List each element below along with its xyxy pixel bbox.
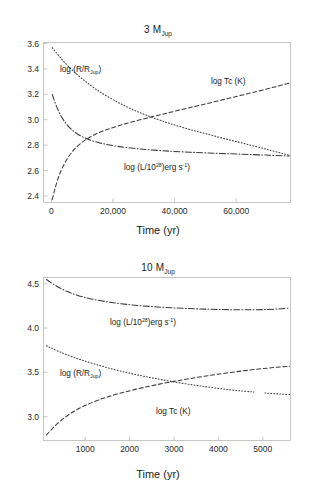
y-tick-label: 4.0 [27, 323, 39, 333]
x-tickmarks-top [51, 199, 236, 203]
curve-label-temperature-bottom: log Tc (K) [156, 407, 191, 416]
curve-radius-bottom-seg2 [265, 393, 290, 395]
x-tick-label: 2000 [120, 444, 139, 454]
plot-area-bottom: 3.0 3.5 4.0 4.5 1000 2000 3000 4000 5000… [0, 250, 316, 500]
x-tick-label: 3000 [165, 444, 184, 454]
panel-10-mjup: 10 MJup 3.0 3.5 [0, 250, 316, 500]
curve-label-temperature-top: log Tc (K) [211, 77, 246, 86]
curve-label-luminosity-bottom: log (L/1028)erg s-1) [110, 317, 176, 327]
x-tick-label: 40,000 [162, 206, 188, 216]
curve-label-luminosity-top: log (L/1028)erg s-1) [124, 162, 190, 172]
plot-area-top: 2.4 2.6 2.8 3.0 3.2 3.4 3.6 0 20,000 40,… [0, 0, 316, 250]
x-tick-label: 5000 [253, 444, 272, 454]
x-axis-title-bottom: Time (yr) [0, 468, 316, 480]
y-tick-label: 3.2 [27, 89, 39, 99]
x-tick-label: 20,000 [100, 206, 126, 216]
y-ticklabels-top: 2.4 2.6 2.8 3.0 3.2 3.4 3.6 [27, 39, 39, 201]
curve-luminosity-bottom [47, 280, 290, 310]
y-tick-label: 3.6 [27, 39, 39, 49]
y-tick-label: 3.0 [27, 412, 39, 422]
figure-container: 3 MJup 2.4 [0, 0, 316, 500]
y-tick-label: 2.8 [27, 140, 39, 150]
x-axis-title-top: Time (yr) [0, 224, 316, 236]
curve-luminosity-top [52, 95, 289, 157]
x-tick-label: 4000 [209, 444, 228, 454]
y-ticklabels-bottom: 3.0 3.5 4.0 4.5 [27, 279, 39, 422]
x-ticklabels-bottom: 1000 2000 3000 4000 5000 [76, 444, 273, 454]
y-tick-label: 3.5 [27, 367, 39, 377]
plot-frame-bottom [44, 278, 291, 441]
x-tick-label: 60,000 [223, 206, 249, 216]
y-tick-label: 3.4 [27, 64, 39, 74]
y-tick-label: 2.6 [27, 166, 39, 176]
panel-3-mjup: 3 MJup 2.4 [0, 0, 316, 250]
y-tickmarks-bottom [44, 284, 48, 417]
curve-label-radius-top: log (R/RJup) [60, 65, 101, 75]
y-tickmarks-top [44, 44, 48, 196]
x-tickmarks-bottom [85, 437, 263, 441]
y-tick-label: 4.5 [27, 279, 39, 289]
x-tick-label: 1000 [76, 444, 95, 454]
y-tick-label: 2.4 [27, 191, 39, 201]
curve-temperature-top [52, 83, 289, 200]
y-tick-label: 3.0 [27, 115, 39, 125]
x-ticklabels-top: 0 20,000 40,000 60,000 [49, 206, 249, 216]
x-tick-label: 0 [49, 206, 54, 216]
curve-label-radius-bottom: log (R/RJup) [60, 369, 101, 379]
